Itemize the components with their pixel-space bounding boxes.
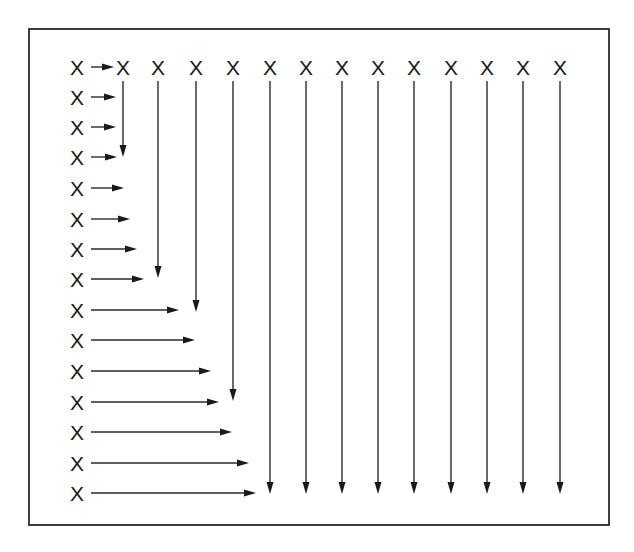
row-x-mark: X [70, 421, 84, 444]
column-x-mark: X [226, 56, 240, 79]
column-x-mark: X [263, 56, 277, 79]
row-x-mark: X [70, 238, 84, 261]
down-arrow-icon [375, 81, 382, 494]
row-x-mark: X [70, 482, 84, 505]
row-x-mark: X [70, 146, 84, 169]
diagram-canvas: XXXXXXXXXXXXX XXXXXXXXXXXXXXX [0, 0, 634, 552]
down-arrow-icon [411, 81, 418, 494]
row-x-mark: X [70, 56, 84, 79]
down-arrow-icon [557, 81, 564, 494]
row-x-mark: X [70, 391, 84, 414]
down-arrow-icon [120, 81, 127, 157]
right-arrow-icon [91, 490, 256, 497]
right-arrow-icon [91, 246, 137, 253]
horizontal-arrows [91, 64, 256, 497]
right-arrow-icon [91, 307, 179, 314]
column-x-mark: X [335, 56, 349, 79]
right-arrow-icon [91, 154, 117, 161]
column-x-mark: X [480, 56, 494, 79]
row-x-mark: X [70, 299, 84, 322]
right-arrow-icon [91, 429, 232, 436]
column-x-mark: X [116, 56, 130, 79]
right-arrow-icon [91, 276, 144, 283]
row-x-mark: X [70, 208, 84, 231]
down-arrow-icon [448, 81, 455, 494]
left-column-row-labels: XXXXXXXXXXXXXXX [70, 56, 84, 505]
right-arrow-icon [91, 368, 211, 375]
column-x-mark: X [299, 56, 313, 79]
column-x-mark: X [444, 56, 458, 79]
right-arrow-icon [91, 185, 124, 192]
right-arrow-icon [91, 124, 116, 131]
down-arrow-icon [303, 81, 310, 494]
column-x-mark: X [151, 56, 165, 79]
right-arrow-icon [91, 337, 195, 344]
down-arrow-icon [267, 81, 274, 494]
column-x-mark: X [407, 56, 421, 79]
top-row-column-headers: XXXXXXXXXXXXX [116, 56, 567, 79]
right-arrow-icon [91, 94, 116, 101]
column-x-mark: X [553, 56, 567, 79]
column-x-mark: X [189, 56, 203, 79]
row-x-mark: X [70, 268, 84, 291]
down-arrow-icon [193, 81, 200, 312]
down-arrow-icon [484, 81, 491, 494]
diagram-frame [29, 29, 609, 525]
row-x-mark: X [70, 116, 84, 139]
row-x-mark: X [70, 452, 84, 475]
down-arrow-icon [520, 81, 527, 494]
right-arrow-icon [91, 64, 114, 71]
right-arrow-icon [91, 216, 130, 223]
row-x-mark: X [70, 177, 84, 200]
right-arrow-icon [91, 460, 249, 467]
down-arrow-icon [339, 81, 346, 494]
right-arrow-icon [91, 399, 219, 406]
row-x-mark: X [70, 86, 84, 109]
column-x-mark: X [516, 56, 530, 79]
down-arrow-icon [230, 81, 237, 401]
down-arrow-icon [155, 81, 162, 278]
row-x-mark: X [70, 329, 84, 352]
row-x-mark: X [70, 360, 84, 383]
column-x-mark: X [371, 56, 385, 79]
